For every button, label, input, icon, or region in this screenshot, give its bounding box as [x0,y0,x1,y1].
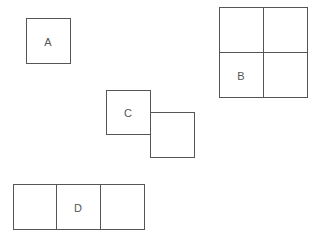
shape-b-label: B [237,70,244,82]
shape-b-cell-top-left [219,7,264,53]
shape-d-cell-left [13,184,58,230]
shape-c-square-lower [150,112,195,158]
shape-d-label: D [74,202,82,214]
shape-b-cell-bottom-right [263,52,308,98]
shape-a-label: A [44,36,51,48]
shape-c-label: C [124,107,132,119]
shape-d-cell-right [100,184,145,230]
shape-b-cell-top-right [263,7,308,53]
